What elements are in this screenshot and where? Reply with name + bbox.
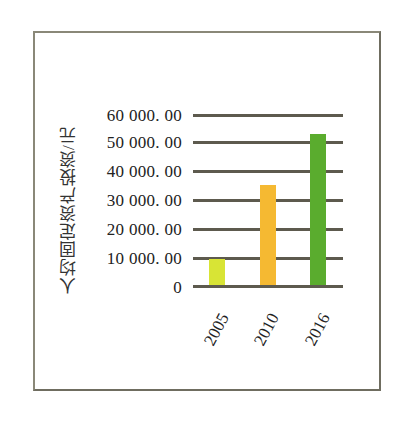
y-tick-0: 0 — [72, 279, 182, 296]
gridline-60000 — [193, 114, 343, 117]
y-tick-60000: 60 000. 00 — [72, 107, 182, 124]
x-axis-baseline — [193, 285, 343, 288]
y-tick-20000: 20 000. 00 — [72, 221, 182, 238]
y-tick-50000: 50 000. 00 — [72, 134, 182, 151]
bar-2005 — [209, 259, 225, 286]
bar-2016 — [310, 134, 326, 286]
y-tick-30000: 30 000. 00 — [72, 192, 182, 209]
y-tick-40000: 40 000. 00 — [72, 163, 182, 180]
bar-2010 — [260, 185, 276, 286]
y-tick-10000: 10 000. 00 — [72, 250, 182, 267]
